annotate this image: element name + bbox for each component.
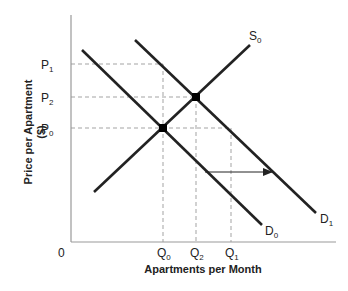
x-tick-q0: Q0 (157, 246, 171, 262)
y-axis-title-line2: ($) (35, 125, 47, 139)
y-tick-p1: P1 (41, 58, 54, 74)
supply-curve-s0 (94, 45, 250, 192)
equilibrium-point-2 (192, 93, 200, 101)
equilibrium-point-0 (159, 124, 167, 132)
y-tick-p2: P2 (41, 91, 54, 107)
label-s0: S0 (249, 29, 262, 45)
y-axis-title-line1: Price per Apartment (22, 79, 34, 184)
supply-demand-chart: P1 P2 P0 0 Q0 Q2 Q1 S0 D0 D1 Apartments … (0, 0, 348, 291)
x-axis-title: Apartments per Month (144, 263, 262, 275)
guide-lines (71, 64, 231, 242)
label-d0: D0 (265, 224, 279, 240)
x-tick-q2: Q2 (190, 246, 204, 262)
label-d1: D1 (320, 212, 334, 228)
origin-label: 0 (58, 246, 65, 260)
x-tick-q1: Q1 (225, 246, 239, 262)
